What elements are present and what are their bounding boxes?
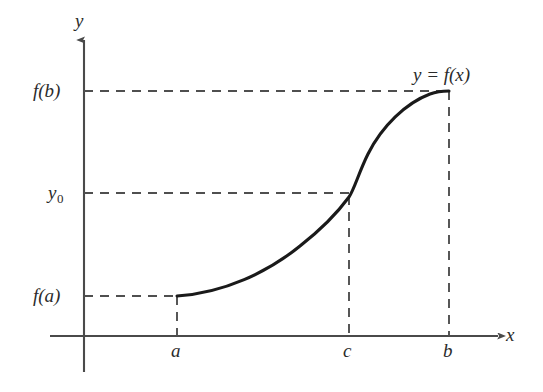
x-tick-label-c: c — [343, 340, 351, 362]
x-tick-label-a: a — [171, 340, 181, 362]
y-tick-label-fa: f(a) — [33, 285, 60, 307]
x-axis-label: x — [506, 324, 514, 346]
y-tick-label-y0-subscript: 0 — [57, 191, 64, 206]
y-tick-label-y0: y0 — [48, 182, 63, 207]
y-tick-label-y0-base: y — [48, 182, 56, 203]
curve-equation-label: y = f(x) — [413, 64, 470, 86]
figure-canvas: y x f(b) y0 f(a) a c b y = f(x) — [0, 0, 543, 392]
y-tick-label-fb: f(b) — [33, 80, 60, 102]
y-axis-label: y — [75, 10, 83, 32]
graph-svg — [0, 0, 543, 392]
x-tick-label-b: b — [443, 340, 453, 362]
